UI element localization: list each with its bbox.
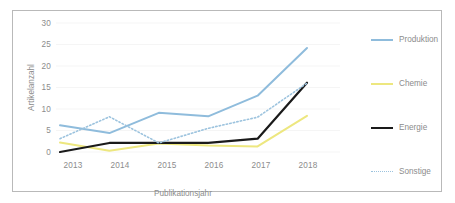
series-lines (60, 48, 307, 152)
series-line-energie (60, 83, 307, 152)
series-line-sonstige (60, 83, 307, 143)
series-line-produktion (60, 48, 307, 133)
plot-area (0, 0, 455, 203)
gridlines (56, 23, 340, 152)
